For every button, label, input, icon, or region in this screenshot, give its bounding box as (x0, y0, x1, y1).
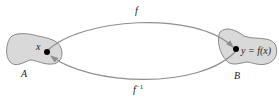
inverse-map-label: f−1 (133, 83, 144, 95)
set-a-region (7, 34, 62, 65)
point-y-label: y = f(x) (240, 45, 272, 57)
set-a-label: A (20, 68, 28, 79)
forward-map-arrow (47, 23, 233, 51)
function-inverse-diagram: x A y = f(x) B f f−1 (0, 0, 279, 100)
point-y (233, 46, 239, 52)
forward-map-label: f (135, 5, 139, 16)
set-b-label: B (234, 70, 240, 81)
inverse-map-arrow (51, 51, 236, 79)
point-x (44, 49, 50, 55)
inverse-map-label-superscript: −1 (136, 83, 144, 91)
point-x-label: x (35, 41, 41, 52)
